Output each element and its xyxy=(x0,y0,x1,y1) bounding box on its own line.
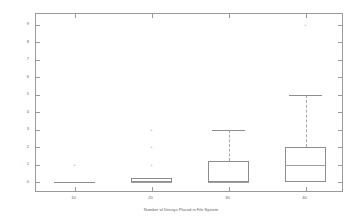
x-tick-label: 30 xyxy=(213,195,243,200)
boxplot-figure: Distribution of Decoy File Accesses by L… xyxy=(0,0,362,222)
box-iqr xyxy=(208,161,248,183)
whisker-cap-upper xyxy=(212,130,246,131)
y-tick-label: 6 xyxy=(0,74,29,79)
box-median-line xyxy=(208,182,248,183)
outlier-marker: + xyxy=(150,128,152,132)
y-tick-label: 0 xyxy=(0,179,29,184)
y-tick-label: 7 xyxy=(0,56,29,61)
x-tick-label: 10 xyxy=(59,195,89,200)
y-tick-label: 4 xyxy=(0,109,29,114)
x-axis-label: Number of Decoys Placed in File System xyxy=(0,207,362,212)
whisker-upper xyxy=(229,130,230,161)
x-tick-label: 20 xyxy=(136,195,166,200)
box-median-line xyxy=(285,165,325,166)
box-median-line xyxy=(131,182,171,183)
y-tick-label: 3 xyxy=(0,126,29,131)
whisker-upper xyxy=(306,95,307,148)
x-tick-label: 40 xyxy=(290,195,320,200)
y-tick-label: 1 xyxy=(0,161,29,166)
y-tick-label: 9 xyxy=(0,21,29,26)
y-tick-label: 5 xyxy=(0,91,29,96)
plot-area: +++++ xyxy=(35,13,343,192)
outlier-marker: + xyxy=(150,145,152,149)
outlier-marker: + xyxy=(73,163,75,167)
box-degenerate-line xyxy=(54,182,94,183)
boxplot-series: +++++ xyxy=(36,14,342,191)
y-tick-label: 8 xyxy=(0,39,29,44)
y-tick-label: 2 xyxy=(0,144,29,149)
outlier-marker: + xyxy=(304,23,306,27)
whisker-cap-upper xyxy=(289,95,323,96)
outlier-marker: + xyxy=(150,163,152,167)
